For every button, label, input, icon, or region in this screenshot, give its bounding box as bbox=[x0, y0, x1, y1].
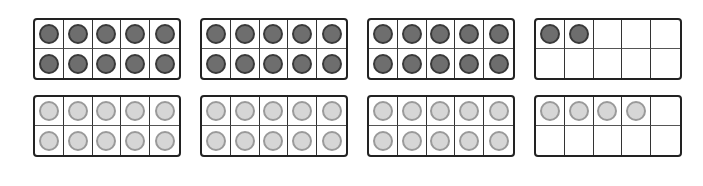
ten-frame-cell bbox=[369, 126, 398, 155]
dark-counter-icon bbox=[373, 24, 393, 44]
ten-frame-cell bbox=[121, 126, 150, 155]
light-counter-icon bbox=[540, 101, 560, 121]
ten-frame-cell bbox=[202, 126, 231, 155]
ten-frame-cell bbox=[536, 97, 565, 126]
ten-frame-cell bbox=[622, 20, 651, 49]
dark-counter-icon bbox=[489, 54, 509, 74]
ten-frame-cell bbox=[64, 126, 93, 155]
ten-frame-cell bbox=[369, 97, 398, 126]
ten-frame-cell bbox=[398, 49, 427, 78]
ten-frame-cell bbox=[455, 20, 484, 49]
dark-counter-icon bbox=[155, 54, 175, 74]
light-counter-icon bbox=[206, 131, 226, 151]
light-counter-icon bbox=[155, 131, 175, 151]
dark-counter-icon bbox=[322, 24, 342, 44]
ten-frame-cell bbox=[150, 126, 179, 155]
ten-frame-cell bbox=[231, 97, 260, 126]
top-row-ten-frames bbox=[33, 18, 682, 80]
light-counter-icon bbox=[39, 101, 59, 121]
light-counter-icon bbox=[322, 131, 342, 151]
light-counter-icon bbox=[155, 101, 175, 121]
ten-frame-cell bbox=[288, 126, 317, 155]
dark-counter-icon bbox=[235, 24, 255, 44]
light-counter-icon bbox=[402, 131, 422, 151]
dark-counter-icon bbox=[39, 24, 59, 44]
dark-counter-icon bbox=[125, 24, 145, 44]
light-counter-icon bbox=[125, 101, 145, 121]
dark-counter-icon bbox=[39, 54, 59, 74]
light-counter-icon bbox=[402, 101, 422, 121]
ten-frame-cell bbox=[260, 126, 289, 155]
dark-counter-icon bbox=[459, 54, 479, 74]
light-counter-icon bbox=[597, 101, 617, 121]
ten-frame-cell bbox=[202, 20, 231, 49]
ten-frame-cell bbox=[565, 20, 594, 49]
light-counter-icon bbox=[39, 131, 59, 151]
dark-counter-icon bbox=[263, 54, 283, 74]
ten-frame-cell bbox=[427, 126, 456, 155]
light-counter-icon bbox=[68, 131, 88, 151]
ten-frame bbox=[200, 95, 348, 157]
dark-counter-icon bbox=[125, 54, 145, 74]
light-counter-icon bbox=[489, 101, 509, 121]
light-counter-icon bbox=[373, 101, 393, 121]
light-counter-icon bbox=[292, 101, 312, 121]
ten-frame-cell bbox=[622, 126, 651, 155]
dark-counter-icon bbox=[402, 24, 422, 44]
ten-frame-cell bbox=[369, 49, 398, 78]
ten-frame-cell bbox=[64, 20, 93, 49]
light-counter-icon bbox=[235, 101, 255, 121]
dark-counter-icon bbox=[489, 24, 509, 44]
dark-counter-icon bbox=[402, 54, 422, 74]
ten-frame bbox=[534, 18, 682, 80]
ten-frame-cell bbox=[260, 97, 289, 126]
ten-frame-cell bbox=[594, 20, 623, 49]
ten-frame-cell bbox=[93, 97, 122, 126]
ten-frame-cell bbox=[565, 49, 594, 78]
light-counter-icon bbox=[430, 101, 450, 121]
ten-frame-cell bbox=[427, 97, 456, 126]
light-counter-icon bbox=[292, 131, 312, 151]
ten-frame-cell bbox=[455, 126, 484, 155]
ten-frame-cell bbox=[35, 49, 64, 78]
light-counter-icon bbox=[569, 101, 589, 121]
dark-counter-icon bbox=[292, 24, 312, 44]
ten-frame-cell bbox=[455, 97, 484, 126]
dark-counter-icon bbox=[235, 54, 255, 74]
ten-frame-cell bbox=[150, 20, 179, 49]
dark-counter-icon bbox=[292, 54, 312, 74]
light-counter-icon bbox=[489, 131, 509, 151]
dark-counter-icon bbox=[155, 24, 175, 44]
light-counter-icon bbox=[96, 101, 116, 121]
light-counter-icon bbox=[459, 101, 479, 121]
ten-frame bbox=[367, 18, 515, 80]
light-counter-icon bbox=[206, 101, 226, 121]
ten-frame-cell bbox=[317, 20, 346, 49]
light-counter-icon bbox=[235, 131, 255, 151]
ten-frame-cell bbox=[622, 97, 651, 126]
ten-frame bbox=[367, 95, 515, 157]
ten-frame-cell bbox=[121, 49, 150, 78]
ten-frame-cell bbox=[398, 20, 427, 49]
dark-counter-icon bbox=[263, 24, 283, 44]
ten-frame-cell bbox=[536, 126, 565, 155]
ten-frame-cell bbox=[35, 97, 64, 126]
ten-frame-cell bbox=[288, 20, 317, 49]
dark-counter-icon bbox=[68, 54, 88, 74]
dark-counter-icon bbox=[430, 54, 450, 74]
ten-frame-cell bbox=[231, 49, 260, 78]
ten-frame-cell bbox=[93, 126, 122, 155]
dark-counter-icon bbox=[322, 54, 342, 74]
ten-frame-cell bbox=[427, 49, 456, 78]
ten-frame-cell bbox=[35, 126, 64, 155]
dark-counter-icon bbox=[430, 24, 450, 44]
light-counter-icon bbox=[125, 131, 145, 151]
ten-frame-cell bbox=[369, 20, 398, 49]
ten-frame-cell bbox=[93, 49, 122, 78]
ten-frame-cell bbox=[35, 20, 64, 49]
ten-frame bbox=[200, 18, 348, 80]
bottom-row-ten-frames bbox=[33, 95, 682, 157]
ten-frame-cell bbox=[202, 97, 231, 126]
ten-frame-cell bbox=[651, 49, 680, 78]
ten-frame-cell bbox=[231, 126, 260, 155]
